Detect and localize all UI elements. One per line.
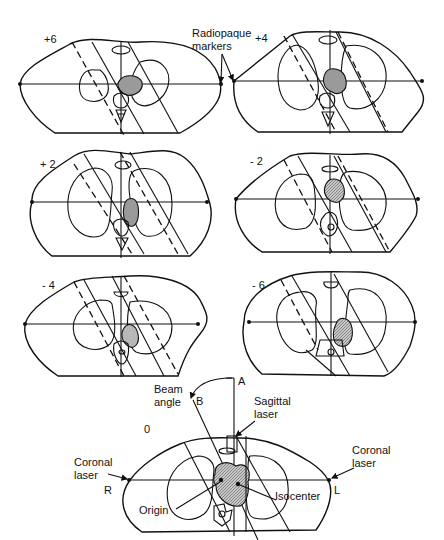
left-lung [339,171,386,230]
label-a: A [238,375,246,387]
radiopaque-marker [30,200,34,204]
label-b: B [196,395,203,407]
right-lung [278,45,318,110]
radiopaque-marker [413,320,417,324]
beam-angle-label-1: Beam [154,383,183,395]
slice-panel-minus6: - 6 [243,272,417,376]
coronal-laser-left-label-2: laser [74,469,98,481]
coronal-laser-left-label-1: Coronal [74,456,113,468]
heart [118,76,142,96]
radiopaque-marker [18,82,22,86]
sagittal-laser-label-1: Sagittal [254,395,291,407]
beam-edge-dashed [281,280,318,350]
origin-point [219,478,223,482]
sagittal-laser-arrow [236,421,255,436]
radiopaque-marker [205,200,209,204]
arrow-to-marker-right [222,54,233,80]
radiopaque-marker [234,197,238,201]
beam-edge [112,276,164,376]
heart [324,69,347,94]
radiopaque-marker [196,322,200,326]
radiopaque-marker [416,197,420,201]
radiopaque-marker [420,79,424,83]
heart [333,318,352,346]
slice-panel-minus2: - 2 [234,153,420,254]
spinal-process [116,238,128,250]
side-label-l: L [334,484,340,496]
origin-label: Origin [139,504,168,516]
slice-panel-plus4: +4 [232,30,424,134]
isocenter-point [236,482,240,486]
arrow-to-marker-left [221,54,222,82]
body-contour [235,153,417,252]
slice-label: +4 [255,32,268,44]
heart [122,325,138,348]
slice-panel-plus2: + 2 [30,150,211,258]
slice-label: 0 [144,423,150,435]
isocenter-label: Isocenter [275,490,321,502]
coronal-laser-right-label-2: laser [352,457,376,469]
slice-label: +6 [44,33,57,45]
radiopaque-label-line2: markers [192,40,232,52]
slice-label: - 4 [42,279,55,291]
slice-label: - 2 [250,155,263,167]
coronal-laser-left-arrow [108,474,127,479]
ct-slice-diagram: +6 Radiopaque markers +4 [0,0,444,540]
beam-edge-dashed [338,156,390,252]
slice-label: - 6 [252,279,265,291]
origin-leader [176,482,220,509]
heart [123,199,138,227]
radiopaque-marker [127,478,131,482]
spinal-canal [328,224,334,230]
slice-panel-zero: A B Beam angle Sagittal laser Origin Iso… [74,375,391,540]
radiopaque-marker [247,320,251,324]
right-lung [80,70,109,102]
radiopaque-label-line1: Radiopaque [192,27,251,39]
sternum [319,36,337,44]
heart [324,179,344,202]
beam-edge [130,152,188,254]
coronal-laser-right-arrow [332,468,354,478]
beam-edge [298,156,352,252]
vertebra [214,504,232,526]
radiopaque-marker [23,322,27,326]
sagittal-laser-label-2: laser [254,408,278,420]
side-label-r: R [104,484,112,496]
beam-angle-label-2: angle [154,396,181,408]
beam-edge [334,156,386,252]
slice-panel-minus4: - 4 [23,276,207,377]
heart [214,463,250,506]
radiopaque-marker [327,478,331,482]
slice-label: + 2 [40,158,56,170]
radiopaque-marker [219,82,223,86]
coronal-laser-right-label-1: Coronal [352,444,391,456]
radiopaque-marker [232,79,236,83]
